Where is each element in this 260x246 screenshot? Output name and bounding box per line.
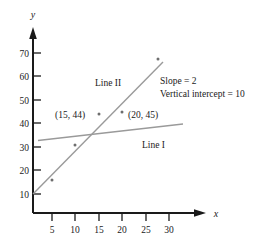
y-tick-label-30: 30 — [20, 143, 30, 153]
x-tick-label-20: 20 — [117, 225, 127, 235]
line-one-label: Line I — [142, 140, 165, 150]
slope-annotation: Slope = 2 — [160, 76, 197, 86]
plot-canvas: 70 60 50 40 30 20 10 5 10 15 20 25 30 y — [0, 0, 260, 246]
data-point — [51, 179, 54, 182]
x-axis-label: x — [213, 208, 219, 219]
point-label-20-45: (20, 45) — [128, 110, 158, 121]
x-tick-label-10: 10 — [70, 225, 80, 235]
y-tick-label-50: 50 — [20, 96, 30, 106]
y-tick-label-60: 60 — [20, 72, 30, 82]
x-tick-label-25: 25 — [141, 225, 151, 235]
y-axis-label: y — [30, 9, 36, 20]
scatter-plot-figure: 70 60 50 40 30 20 10 5 10 15 20 25 30 y — [0, 0, 260, 246]
line-one-path — [38, 124, 183, 141]
x-ticks-group — [52, 213, 169, 221]
y-tick-label-40: 40 — [20, 119, 30, 129]
intercept-annotation: Vertical intercept = 10 — [160, 89, 245, 99]
data-point — [98, 113, 101, 116]
line-two-label: Line II — [95, 78, 121, 88]
x-tick-labels-group: 5 10 15 20 25 30 — [50, 225, 174, 235]
y-tick-label-20: 20 — [20, 166, 30, 176]
x-tick-label-30: 30 — [164, 225, 174, 235]
x-tick-label-15: 15 — [94, 225, 104, 235]
data-point — [74, 144, 77, 147]
y-ticks-group — [33, 53, 41, 194]
x-axis-arrowhead — [194, 209, 206, 217]
x-tick-label-5: 5 — [50, 225, 55, 235]
data-point — [157, 58, 160, 61]
y-tick-label-70: 70 — [20, 49, 30, 59]
axes-group — [29, 27, 206, 217]
data-point — [121, 111, 124, 114]
y-tick-label-10: 10 — [20, 190, 30, 200]
y-tick-labels-group: 70 60 50 40 30 20 10 — [20, 49, 30, 200]
point-label-15-44: (15, 44) — [55, 110, 85, 121]
y-axis-arrowhead — [29, 27, 37, 39]
